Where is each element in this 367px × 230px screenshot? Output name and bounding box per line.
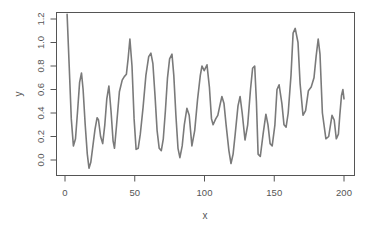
y-tick-label: 1.2	[35, 12, 46, 25]
y-tick-label: 0.8	[35, 59, 46, 72]
y-axis-title: y	[13, 92, 24, 97]
data-line	[67, 14, 344, 168]
y-tick-label: 0.0	[35, 153, 46, 166]
x-tick-label: 200	[336, 187, 352, 198]
x-tick-label: 0	[62, 187, 67, 198]
y-axis: 0.00.20.40.60.81.01.2	[35, 12, 57, 166]
y-tick-label: 0.4	[35, 106, 46, 119]
x-axis: 050100150200	[62, 176, 352, 199]
y-tick-label: 0.2	[35, 130, 46, 143]
x-tick-label: 150	[266, 187, 282, 198]
x-tick-label: 50	[129, 187, 140, 198]
y-tick-label: 0.6	[35, 83, 46, 96]
plot-frame	[57, 13, 355, 176]
y-tick-label: 1.0	[35, 36, 46, 49]
x-tick-label: 100	[197, 187, 213, 198]
x-axis-title: x	[203, 210, 208, 221]
line-chart: 050100150200 0.00.20.40.60.81.01.2 x y	[0, 0, 367, 230]
